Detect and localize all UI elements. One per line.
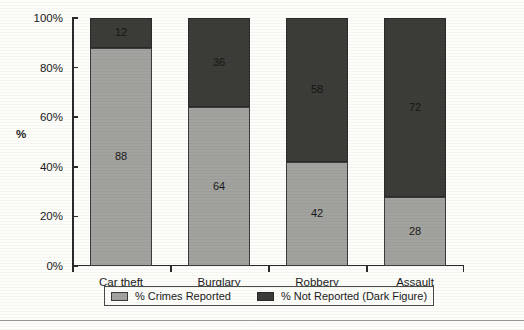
y-tick-label: 20% (40, 210, 63, 222)
bar-segment[interactable]: 42 (286, 162, 348, 266)
legend-swatch (111, 292, 128, 301)
bar-segment[interactable]: 64 (188, 107, 250, 266)
bar-segment[interactable]: 12 (90, 18, 152, 48)
chart-page: % 0%20%40%60%80%100% 8812Car theft6436Bu… (0, 0, 524, 330)
bar-group[interactable]: 2872Assault (384, 18, 446, 266)
bar-value-label: 58 (311, 84, 323, 95)
chart-legend: % Crimes Reported% Not Reported (Dark Fi… (104, 286, 434, 306)
y-tick-label: 40% (40, 161, 63, 173)
bar-value-label: 88 (115, 151, 127, 162)
bar-group[interactable]: 4258Robbery (286, 18, 348, 266)
bar-segment[interactable]: 88 (90, 48, 152, 266)
y-tick-label: 0% (46, 260, 63, 272)
legend-swatch (257, 292, 274, 301)
footer-divider (0, 320, 524, 321)
bar-value-label: 64 (213, 181, 225, 192)
bar-value-label: 28 (409, 226, 421, 237)
y-tick (72, 67, 78, 69)
bar-segment[interactable]: 58 (286, 18, 348, 162)
y-tick (72, 116, 78, 118)
legend-item[interactable]: % Not Reported (Dark Figure) (257, 290, 427, 302)
y-tick (72, 166, 78, 168)
bar-segment[interactable]: 36 (188, 18, 250, 107)
bar-value-label: 12 (115, 27, 127, 38)
bar-value-label: 42 (311, 208, 323, 219)
y-tick (72, 17, 78, 19)
y-tick-label: 80% (40, 62, 63, 74)
legend-item[interactable]: % Crimes Reported (111, 290, 231, 302)
bar-value-label: 36 (213, 57, 225, 68)
y-tick-label: 60% (40, 111, 63, 123)
bar-segment[interactable]: 72 (384, 18, 446, 197)
x-tick (72, 266, 74, 272)
bar-segment[interactable]: 28 (384, 197, 446, 266)
x-tick (170, 266, 172, 272)
x-tick (366, 266, 368, 272)
bar-value-label: 72 (409, 102, 421, 113)
plot-area: 0%20%40%60%80%100% 8812Car theft6436Burg… (72, 18, 464, 266)
x-tick (268, 266, 270, 272)
legend-label: % Not Reported (Dark Figure) (281, 290, 427, 302)
bar-group[interactable]: 8812Car theft (90, 18, 152, 266)
legend-label: % Crimes Reported (135, 290, 231, 302)
y-axis-line (72, 18, 74, 266)
bar-group[interactable]: 6436Burglary (188, 18, 250, 266)
x-tick (463, 266, 465, 272)
y-tick (72, 216, 78, 218)
y-axis-title: % (16, 128, 26, 140)
y-tick-label: 100% (34, 12, 63, 24)
